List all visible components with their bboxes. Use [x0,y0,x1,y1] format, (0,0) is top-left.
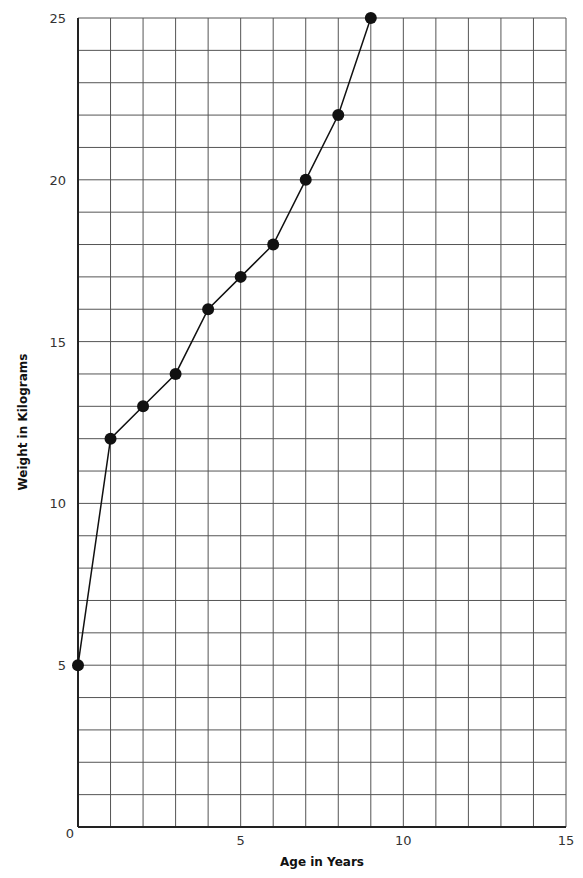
x-axis-title: Age in Years [280,855,364,869]
axes-frame [78,18,566,827]
data-point-marker [170,368,182,380]
data-point-marker [235,271,247,283]
y-axis-ticks: 510152025 [49,11,66,673]
data-point-marker [300,174,312,186]
x-tick-label: 15 [558,833,575,848]
x-tick-label: 10 [395,833,412,848]
y-tick-label: 10 [49,496,66,511]
x-tick-label: 5 [237,833,245,848]
y-tick-label: 25 [49,11,66,26]
x-tick-label: 0 [66,826,74,841]
data-point-marker [72,659,84,671]
data-point-marker [137,400,149,412]
data-point-marker [332,109,344,121]
y-axis-title: Weight in Kilograms [16,354,30,491]
y-tick-label: 5 [58,658,66,673]
y-tick-label: 15 [49,335,66,350]
x-axis-ticks: 051015 [66,826,574,848]
line-chart: 051015 510152025 Age in Years Weight in … [0,0,583,878]
grid-lines [78,18,566,827]
data-point-marker [267,239,279,251]
data-point-marker [105,433,117,445]
data-point-marker [365,12,377,24]
data-point-marker [202,303,214,315]
y-tick-label: 20 [49,173,66,188]
